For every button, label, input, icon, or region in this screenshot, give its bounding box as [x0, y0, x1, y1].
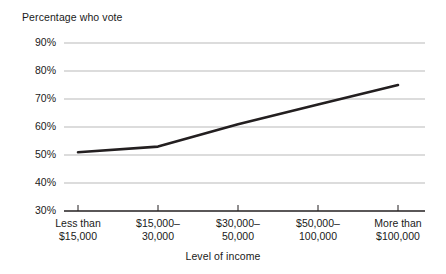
- plot-area: 90%80%70%60%50%40%30% Less than $15,000$…: [0, 0, 446, 274]
- axis-ticks: [78, 205, 398, 211]
- data-line-series-1: [78, 85, 398, 152]
- x-axis-title: Level of income: [0, 250, 446, 262]
- gridlines: [64, 43, 425, 183]
- y-axis-tick-label: 40%: [20, 177, 56, 188]
- x-axis-tick-label: More than $100,000: [350, 217, 446, 242]
- line-chart: Percentage who vote 90%80%70%60%50%40%30…: [0, 0, 446, 274]
- y-axis-tick-label: 60%: [20, 121, 56, 132]
- y-axis-tick-label: 90%: [20, 37, 56, 48]
- y-axis-tick-label: 80%: [20, 65, 56, 76]
- y-axis-tick-label: 30%: [20, 205, 56, 216]
- y-axis-tick-label: 50%: [20, 149, 56, 160]
- y-axis-tick-label: 70%: [20, 93, 56, 104]
